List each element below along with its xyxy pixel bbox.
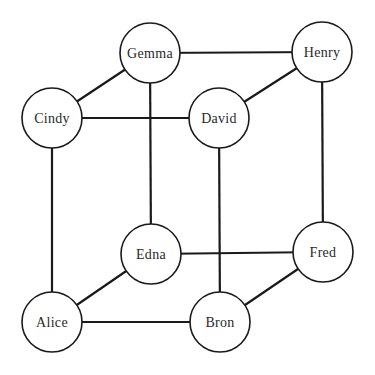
node-edna: Edna: [121, 224, 181, 284]
node-alice: Alice: [22, 292, 82, 352]
node-label: Cindy: [34, 111, 70, 126]
node-fred: Fred: [293, 222, 353, 282]
node-david: David: [189, 88, 249, 148]
edges-layer: [52, 52, 323, 322]
node-label: Fred: [310, 245, 337, 260]
node-label: Bron: [205, 315, 234, 330]
node-gemma: Gemma: [120, 23, 180, 83]
node-label: Gemma: [127, 46, 173, 61]
node-label: Alice: [36, 315, 68, 330]
node-label: Henry: [304, 45, 341, 60]
node-henry: Henry: [292, 22, 352, 82]
nodes-layer: GemmaHenryCindyDavidEdnaFredAliceBron: [22, 22, 353, 352]
node-cindy: Cindy: [22, 88, 82, 148]
cube-graph-diagram: GemmaHenryCindyDavidEdnaFredAliceBron: [0, 0, 375, 375]
node-bron: Bron: [190, 292, 250, 352]
node-label: Edna: [136, 247, 166, 262]
node-label: David: [201, 111, 237, 126]
